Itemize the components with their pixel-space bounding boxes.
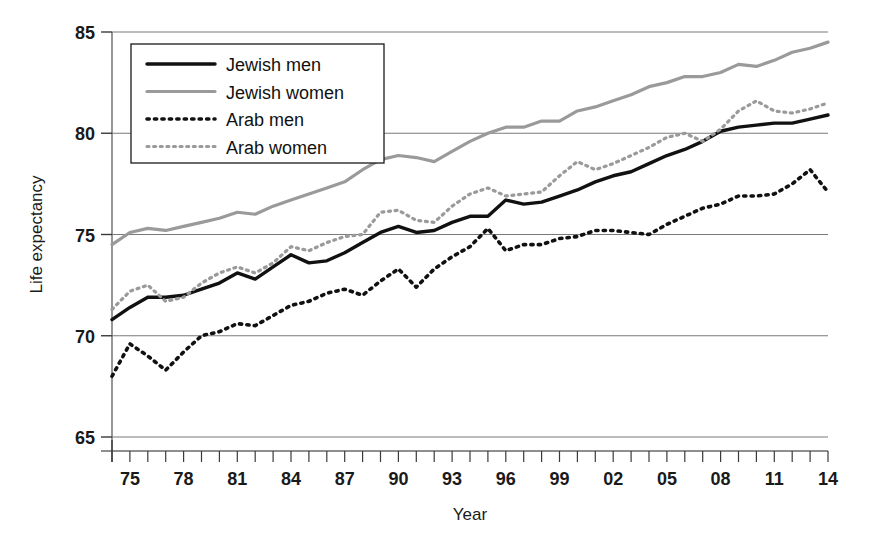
- x-tick-label-08: 08: [711, 469, 731, 489]
- x-tick-label-81: 81: [227, 469, 247, 489]
- x-tick-label-11: 11: [765, 469, 784, 489]
- y-axis: 6570758085: [75, 23, 112, 451]
- x-tick-label-14: 14: [818, 469, 838, 489]
- x-tick-label-99: 99: [549, 469, 569, 489]
- x-tick-label-05: 05: [657, 469, 677, 489]
- x-tick-label-87: 87: [335, 469, 355, 489]
- y-tick-label-75: 75: [75, 226, 95, 246]
- y-tick-label-85: 85: [75, 23, 95, 43]
- line-chart-figure: 6570758085 7578818487909396990205081114 …: [0, 0, 869, 533]
- y-tick-label-65: 65: [75, 428, 95, 448]
- x-tick-label-78: 78: [174, 469, 194, 489]
- x-tick-label-02: 02: [603, 469, 623, 489]
- x-axis-title: Year: [453, 505, 488, 524]
- x-tick-label-75: 75: [120, 469, 140, 489]
- legend-label-jewish-women: Jewish women: [226, 83, 344, 103]
- x-tick-label-93: 93: [442, 469, 462, 489]
- legend-label-jewish-men: Jewish men: [226, 55, 321, 75]
- chart-legend: Jewish menJewish womenArab menArab women: [131, 44, 384, 163]
- x-tick-label-84: 84: [281, 469, 301, 489]
- x-tick-label-90: 90: [388, 469, 408, 489]
- y-tick-label-70: 70: [75, 327, 95, 347]
- x-axis: 7578818487909396990205081114: [101, 440, 838, 489]
- series-line-arab-men: [112, 170, 828, 377]
- y-axis-title: Life expectancy: [27, 175, 46, 294]
- chart-svg: 6570758085 7578818487909396990205081114 …: [0, 0, 869, 533]
- legend-label-arab-women: Arab women: [226, 138, 327, 158]
- legend-label-arab-men: Arab men: [226, 110, 304, 130]
- y-tick-label-80: 80: [75, 124, 95, 144]
- x-tick-label-96: 96: [496, 469, 516, 489]
